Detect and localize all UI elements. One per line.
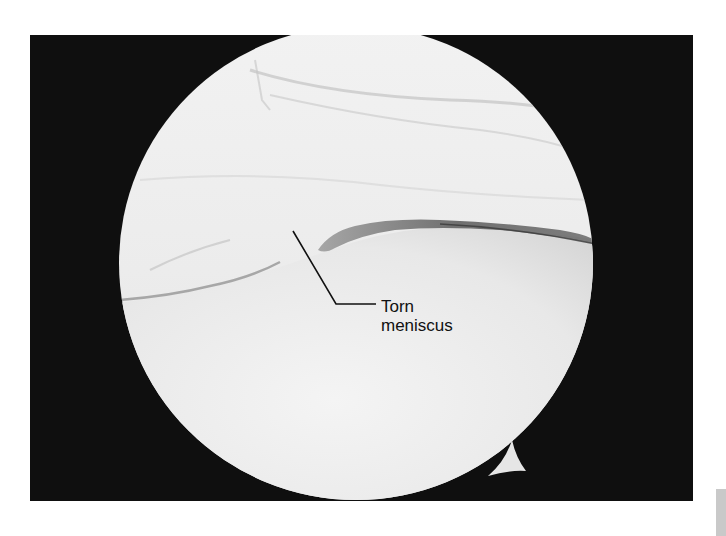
page-edge-tab [716, 489, 726, 536]
annotation-line-1: Torn [381, 297, 414, 316]
annotation-line-2: meniscus [381, 316, 453, 335]
